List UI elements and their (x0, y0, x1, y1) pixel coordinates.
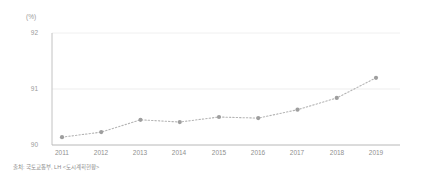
data-point-markers (60, 76, 378, 140)
chart-plot-svg (0, 0, 424, 186)
data-point-2012 (99, 130, 103, 134)
x-tick-label-2014: 2014 (164, 149, 194, 156)
x-tick-label-2012: 2012 (86, 149, 116, 156)
chart-container: (%) 92 91 90 2011 2012 2013 2014 2015 20… (0, 0, 424, 186)
data-point-2013 (138, 118, 142, 122)
data-point-2019 (374, 76, 378, 80)
x-tick-label-2017: 2017 (282, 149, 312, 156)
x-tick-label-2011: 2011 (47, 149, 77, 156)
x-tick-label-2013: 2013 (125, 149, 155, 156)
x-tick-label-2016: 2016 (243, 149, 273, 156)
data-point-2011 (60, 135, 64, 139)
data-point-2016 (256, 116, 260, 120)
data-point-2018 (335, 96, 339, 100)
data-point-2017 (295, 108, 299, 112)
gridlines (52, 33, 400, 89)
source-note: 출처: 국토교통부, LH <도시계획현황> (13, 163, 99, 171)
x-tick-label-2015: 2015 (204, 149, 234, 156)
data-point-2014 (178, 120, 182, 124)
data-point-2015 (217, 115, 221, 119)
x-tick-label-2019: 2019 (361, 149, 391, 156)
x-tick-label-2018: 2018 (322, 149, 352, 156)
data-series-line (62, 78, 376, 137)
series-polyline (62, 78, 376, 137)
